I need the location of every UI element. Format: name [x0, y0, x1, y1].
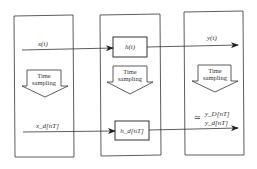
approx-symbol: ≃ — [194, 113, 201, 122]
time-sampling-label-1: Time — [123, 68, 137, 75]
y-D-nT-label: y_D[nT] — [204, 110, 230, 118]
input-panel: x(t) Time sampling x_d[nT] — [14, 15, 74, 157]
time-sampling-label-1: Time — [37, 72, 51, 79]
x-d-nT-label: x_d[nT] — [35, 122, 59, 130]
y-d-nT-label: y_d[nT] — [204, 119, 228, 127]
x-t-label: x(t) — [37, 40, 48, 48]
time-sampling-arrow-left: Time sampling — [22, 70, 68, 97]
y-t-label: y(t) — [206, 34, 217, 42]
h-d-nT-label: h_d[nT] — [120, 127, 144, 135]
y-d-signal-arrow — [149, 128, 238, 130]
time-sampling-arrow-middle: Time sampling — [107, 66, 153, 94]
time-sampling-label-2: sampling — [32, 79, 57, 86]
system-panel: h(t) Time sampling h_d[nT] — [100, 14, 161, 156]
h-t-label: h(t) — [125, 43, 136, 51]
y-t-signal-arrow — [147, 45, 238, 47]
time-sampling-arrow-right: Time sampling — [192, 65, 238, 92]
output-panel: y(t) Time sampling ≃ y_D[nT] y_d[nT] — [184, 11, 244, 155]
time-sampling-label-2: sampling — [118, 75, 143, 82]
time-sampling-label-2: sampling — [203, 74, 228, 81]
time-sampling-label-1: Time — [208, 67, 222, 74]
x-t-signal-arrow — [22, 48, 113, 50]
sampling-equivalence-diagram: x(t) Time sampling x_d[nT] h(t) Time sam… — [0, 0, 257, 169]
